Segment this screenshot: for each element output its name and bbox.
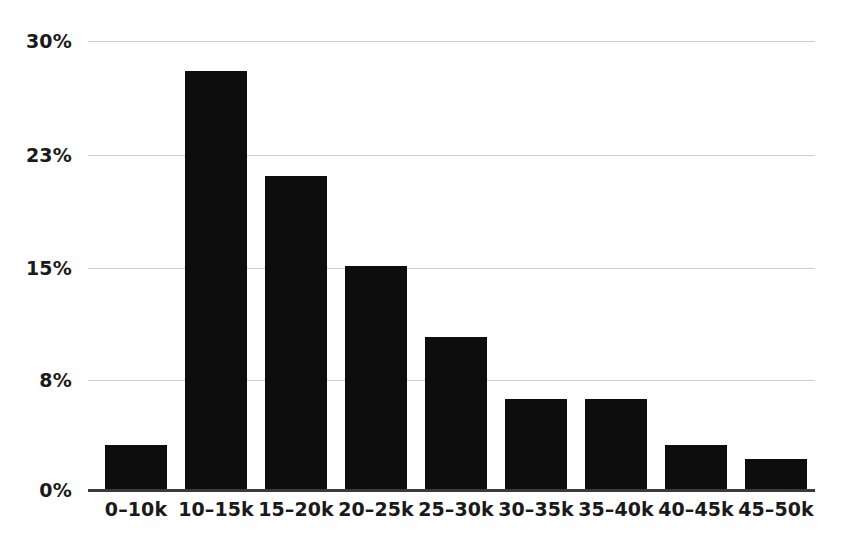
bar-4[interactable] <box>425 337 487 490</box>
ytick-label-8: 8% <box>0 371 72 390</box>
bar-1[interactable] <box>185 71 247 490</box>
ytick-label-15: 15% <box>0 259 72 278</box>
bar-6[interactable] <box>585 399 647 490</box>
ytick-label-30: 30% <box>0 32 72 51</box>
bar-0[interactable] <box>105 445 167 490</box>
bar-5[interactable] <box>505 399 567 490</box>
bar-8[interactable] <box>745 459 807 490</box>
gridline-30 <box>88 41 815 42</box>
xtick-label-8: 45–50k <box>728 500 824 519</box>
bar-3[interactable] <box>345 266 407 491</box>
bar-2[interactable] <box>265 176 327 490</box>
ytick-label-0: 0% <box>0 481 72 500</box>
x-axis-line <box>88 489 815 492</box>
bar-7[interactable] <box>665 445 727 490</box>
bar-chart: 30% 23% 15% 8% 0% 0–10k 10–15k 15–20k 20… <box>0 0 858 547</box>
ytick-label-23: 23% <box>0 146 72 165</box>
